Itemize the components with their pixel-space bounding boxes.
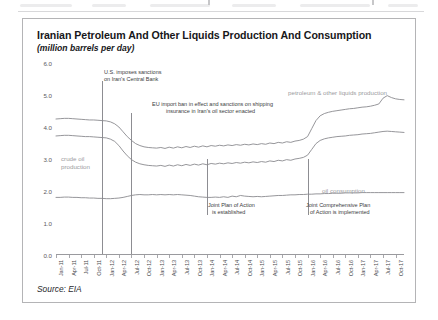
- x-tick-label: Apr-14: [222, 260, 228, 276]
- x-tick-label: Jan-15: [259, 260, 265, 277]
- scan-artifacts: [0, 0, 438, 14]
- x-tick-label: Oct-12: [146, 260, 152, 276]
- x-tick-mark: [119, 255, 120, 258]
- x-tick-label: Jul-11: [83, 260, 89, 274]
- y-tick-label: 5.0: [43, 92, 52, 99]
- annotation-line: of Action is implemented: [306, 209, 370, 216]
- x-tick-label: Apr-16: [322, 260, 328, 276]
- annotation-line: U.S. imposes sanctions: [104, 69, 161, 76]
- x-tick-label: Oct-11: [96, 260, 102, 276]
- series-label-line: production: [61, 163, 90, 171]
- x-tick-label: Jan-14: [209, 260, 215, 277]
- x-tick-mark: [282, 255, 283, 258]
- plot-area: 6.0 5.0 4.0 3.0 2.0 1.0 0.0: [56, 63, 404, 255]
- chart-subtitle: (million barrels per day): [37, 43, 134, 53]
- x-tick-mark: [131, 255, 132, 258]
- x-tick-mark: [295, 255, 296, 258]
- x-tick-mark: [333, 255, 334, 258]
- x-tick-label: Jan-11: [58, 260, 64, 276]
- series-label-production: petroleum & other liquids production: [288, 89, 387, 96]
- x-tick-label: Apr-15: [272, 260, 278, 276]
- y-tick-label: 4.0: [43, 123, 52, 130]
- x-tick-mark: [396, 255, 397, 258]
- series-label-line: crude oil: [61, 155, 90, 163]
- x-tick-mark: [370, 255, 371, 258]
- x-tick-mark: [144, 255, 145, 258]
- x-tick-mark: [56, 255, 57, 258]
- source-note: Source: EIA: [37, 284, 82, 294]
- x-tick-mark: [169, 255, 170, 258]
- series-label-crude-production: crude oil production: [61, 155, 90, 171]
- x-tick-label: Apr-12: [121, 260, 127, 276]
- page-title: Iranian Petroleum And Other Liquids Prod…: [37, 29, 372, 41]
- x-tick-mark: [157, 255, 158, 258]
- x-tick-label: Jan-16: [310, 260, 316, 277]
- annotation-line: insurance in Iran's oil sector enacted: [152, 108, 273, 115]
- x-tick-label: Oct-16: [348, 260, 354, 276]
- x-tick-label: Apr-17: [373, 260, 379, 276]
- y-tick-label: 0.0: [43, 252, 52, 259]
- y-tick-label: 2.0: [43, 188, 52, 195]
- x-tick-mark: [383, 255, 384, 258]
- x-tick-mark: [320, 255, 321, 258]
- x-tick-mark: [270, 255, 271, 258]
- x-tick-label: Oct-14: [247, 260, 253, 276]
- x-tick-mark: [94, 255, 95, 258]
- x-tick-label: Oct-13: [197, 260, 203, 276]
- annotation-joint-plan-of-action: Joint Plan of Action is established: [208, 202, 255, 216]
- x-tick-label: Jul-16: [335, 260, 341, 275]
- annotation-line: EU import ban in effect and sanctions on…: [152, 101, 273, 108]
- x-tick-label: Jul-13: [184, 260, 190, 275]
- x-tick-mark: [207, 255, 208, 258]
- x-tick-mark: [194, 255, 195, 258]
- x-tick-label: Apr-11: [71, 260, 77, 276]
- annotation-jcpoa-implemented: Joint Comprehensive Plan of Action is im…: [306, 202, 370, 216]
- x-tick-mark: [232, 255, 233, 258]
- x-tick-mark: [358, 255, 359, 258]
- x-tick-mark: [220, 255, 221, 258]
- x-tick-label: Jul-12: [134, 260, 140, 275]
- x-tick-mark: [345, 255, 346, 258]
- x-tick-label: Jul-17: [385, 260, 391, 275]
- annotation-line: Joint Comprehensive Plan: [306, 202, 370, 209]
- y-tick-label: 3.0: [43, 156, 52, 163]
- x-tick-label: Jan-12: [109, 260, 115, 277]
- x-tick-label: Jan-17: [360, 260, 366, 277]
- x-tick-label: Apr-13: [171, 260, 177, 276]
- chart-figure-card: Iranian Petroleum And Other Liquids Prod…: [22, 18, 416, 303]
- x-tick-label: Oct-15: [297, 260, 303, 276]
- annotation-line: is established: [208, 209, 255, 216]
- y-tick-label: 6.0: [43, 60, 52, 67]
- x-tick-label: Jul-14: [234, 260, 240, 275]
- x-tick-mark: [245, 255, 246, 258]
- x-tick-mark: [69, 255, 70, 258]
- x-tick-label: Jul-15: [285, 260, 291, 275]
- annotation-line: Joint Plan of Action: [208, 202, 255, 209]
- x-tick-label: Oct-17: [398, 260, 404, 276]
- y-tick-label: 1.0: [43, 219, 52, 226]
- series-label-consumption: oil consumption: [322, 187, 365, 194]
- annotation-us-sanctions-central-bank: U.S. imposes sanctions on Iran's Central…: [104, 69, 161, 83]
- annotation-eu-import-ban: EU import ban in effect and sanctions on…: [152, 101, 273, 115]
- x-tick-mark: [308, 255, 309, 258]
- x-axis-line: [56, 254, 404, 255]
- x-tick-mark: [106, 255, 107, 258]
- series-path: [56, 131, 404, 166]
- x-tick-mark: [257, 255, 258, 258]
- x-tick-label: Jan-13: [159, 260, 165, 277]
- x-tick-mark: [81, 255, 82, 258]
- x-tick-mark: [182, 255, 183, 258]
- annotation-line: on Iran's Central Bank: [104, 76, 161, 83]
